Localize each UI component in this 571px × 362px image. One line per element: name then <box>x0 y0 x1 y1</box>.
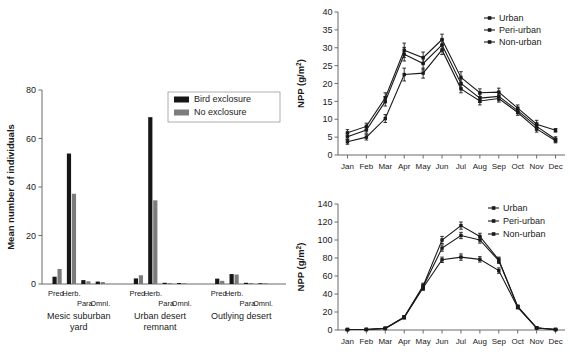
npp_top-x-tick-label: Sep <box>492 162 507 171</box>
npp_top-data-point <box>403 52 406 55</box>
npp_bottom-data-point <box>421 286 424 289</box>
npp_top-data-point <box>554 129 557 132</box>
npp_top-x-tick-label: Oct <box>511 162 524 171</box>
bar-y-tick-label: 0 <box>31 279 36 289</box>
npp_bottom-data-point <box>459 234 462 237</box>
bar-exclosure-Herb <box>148 117 152 284</box>
npp_top-data-point <box>384 117 387 120</box>
bar-exclosure-Pred <box>215 279 219 284</box>
npp_top-data-point <box>346 135 349 138</box>
npp_top-y-axis-title-text: NPP (g/m2) <box>295 59 307 108</box>
npp_top-x-tick-label: Aug <box>473 162 487 171</box>
bar-no-exclosure-Pred <box>57 269 61 284</box>
npp_top-data-point <box>365 128 368 131</box>
npp_bottom-data-point <box>535 326 538 329</box>
bar-exclosure-Pred <box>134 278 138 284</box>
npp_bottom-y-axis-title: NPP (g/m2) <box>295 243 307 292</box>
npp_top-y-tick-label: 25 <box>322 61 332 71</box>
npp_top-data-point <box>440 48 443 51</box>
npp_top-x-tick-label: Dec <box>548 162 562 171</box>
npp_bottom-legend-marker <box>492 206 496 210</box>
bar-no-exclosure-Omnl <box>101 282 105 284</box>
bar-category-label: Omnl. <box>90 299 110 308</box>
npp_top-x-tick-label: Mar <box>378 162 392 171</box>
bar-legend-swatch <box>174 97 189 103</box>
npp_bottom-y-tick-label: 120 <box>317 217 332 227</box>
npp_top-data-point <box>516 111 519 114</box>
npp_top-data-point <box>497 97 500 100</box>
npp_bottom-data-point <box>403 316 406 319</box>
npp_top-x-tick-label: Jun <box>436 162 449 171</box>
npp_top-x-tick-label: Apr <box>398 162 411 171</box>
bar-legend-swatch <box>174 110 189 116</box>
npp_top-x-tick-label: Nov <box>530 162 544 171</box>
npp_top-legend-marker <box>488 28 492 32</box>
npp_top-y-tick-label: 20 <box>322 79 332 89</box>
bar-group-label: remnant <box>143 322 177 332</box>
npp_bottom-series-line-non-urban <box>347 257 555 329</box>
npp_bottom-x-tick-label: May <box>416 337 431 346</box>
bar-group-label: Mesic suburban <box>47 311 111 321</box>
bar-category-label: Omnl. <box>253 299 273 308</box>
npp_bottom-y-tick-label: 100 <box>317 235 332 245</box>
npp_bottom-legend-label: Non-urban <box>503 229 546 239</box>
npp_top-data-point <box>478 99 481 102</box>
npp_top-data-point <box>421 62 424 65</box>
bar-no-exclosure-Pred <box>139 275 143 284</box>
npp_bottom-x-tick-label: Apr <box>398 337 411 346</box>
npp_top-legend-label: Urban <box>499 13 524 23</box>
npp_bottom-x-tick-label: Aug <box>473 337 487 346</box>
npp_bottom-data-point <box>440 238 443 241</box>
npp_bottom-y-tick-label: 0 <box>327 325 332 335</box>
figure-root: 020406080Mean number of individualsPred.… <box>0 0 571 362</box>
npp-bottom-chart-panel: 020406080100120140JanFebMarAprMayJunJulA… <box>288 182 571 362</box>
npp_bottom-y-tick-label: 80 <box>322 253 332 263</box>
npp_bottom-data-point <box>516 306 519 309</box>
npp_bottom-x-tick-label: Sep <box>492 337 507 346</box>
npp_bottom-y-tick-label: 60 <box>322 271 332 281</box>
bar-no-exclosure-Para <box>86 281 90 284</box>
npp_bottom-x-tick-label: Jan <box>341 337 354 346</box>
npp_bottom-y-tick-label: 140 <box>317 199 332 209</box>
npp_top-data-point <box>554 139 557 142</box>
npp_top-x-tick-label: Jan <box>341 162 354 171</box>
npp_bottom-data-point <box>554 328 557 331</box>
bar-no-exclosure-Para <box>168 283 172 284</box>
bar-no-exclosure-Para <box>249 283 253 284</box>
npp_top-y-tick-label: 35 <box>322 25 332 35</box>
bar-no-exclosure-Omnl <box>263 283 267 284</box>
npp_bottom-legend-marker <box>492 232 496 236</box>
npp_bottom-y-axis-title-text: NPP (g/m2) <box>295 243 307 292</box>
npp-top-chart-panel: 0510152025303540JanFebMarAprMayJunJulAug… <box>288 0 571 185</box>
npp_bottom-y-tick-label: 40 <box>322 289 332 299</box>
npp_bottom-data-point <box>497 269 500 272</box>
bar-group-label: Urban desert <box>134 311 187 321</box>
npp_bottom-x-tick-label: Dec <box>548 337 562 346</box>
npp_top-data-point <box>365 135 368 138</box>
bar-y-tick-label: 40 <box>26 182 36 192</box>
npp_top-y-axis-title: NPP (g/m2) <box>295 59 307 108</box>
npp_bottom-data-point <box>440 246 443 249</box>
bar-exclosure-Herb <box>230 274 234 284</box>
bar-no-exclosure-Omnl <box>182 283 186 284</box>
npp_bottom-data-point <box>384 327 387 330</box>
npp_top-y-tick-label: 30 <box>322 43 332 53</box>
bar-exclosure-Omnl <box>177 283 181 284</box>
npp_top-data-point <box>459 87 462 90</box>
npp_bottom-x-tick-label: Nov <box>530 337 544 346</box>
npp_bottom-data-point <box>478 258 481 261</box>
npp_top-y-tick-label: 15 <box>322 97 332 107</box>
npp_top-y-tick-label: 10 <box>322 114 332 124</box>
npp_top-legend-marker <box>488 16 492 20</box>
npp_bottom-data-point <box>440 258 443 261</box>
npp_top-x-tick-label: Feb <box>359 162 373 171</box>
npp_bottom-x-tick-label: Jul <box>456 337 466 346</box>
npp_top-x-tick-label: Jul <box>456 162 466 171</box>
npp_top-data-point <box>346 140 349 143</box>
bar-legend-label: Bird exclosure <box>194 94 251 104</box>
bar-no-exclosure-Herb <box>153 200 157 284</box>
bar-category-label: Herb. <box>225 289 243 298</box>
npp_bottom-data-point <box>478 238 481 241</box>
npp_top-legend-label: Peri-urban <box>499 25 541 35</box>
npp_bottom-x-tick-label: Oct <box>511 337 524 346</box>
